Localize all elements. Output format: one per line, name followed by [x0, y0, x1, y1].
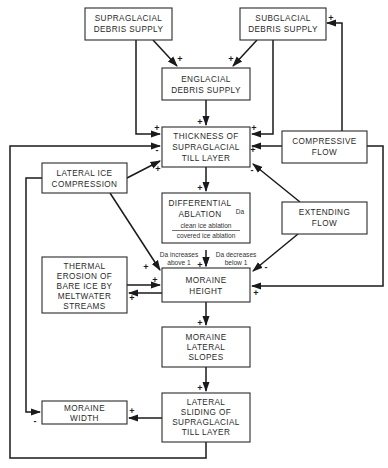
box-label-line: SUBGLACIAL [255, 14, 310, 23]
box-label-line: SUPRAGLACIAL [172, 418, 240, 427]
moraine-feedback-diagram: SUPRAGLACIAL DEBRIS SUPPLY SUBGLACIAL DE… [0, 0, 388, 468]
box-supraglacial-debris-supply: SUPRAGLACIAL DEBRIS SUPPLY [85, 8, 172, 40]
da-increases-annotation: above 1 [167, 259, 191, 266]
box-thermal-erosion: THERMAL EROSION OF BARE ICE BY MELTWATER… [42, 257, 127, 313]
box-label-line: STREAMS [63, 302, 106, 311]
box-label-line: ENGLACIAL [181, 75, 231, 84]
box-label-line: LATERAL [187, 398, 226, 407]
edge-subglacial-to-englacial [233, 40, 257, 66]
box-moraine-width: MORAINE WIDTH [42, 401, 127, 424]
box-label-line: THICKNESS OF [173, 132, 238, 141]
box-moraine-height: MORAINE HEIGHT [162, 268, 250, 302]
box-label-line: ABLATION [178, 210, 221, 219]
box-label-line: DIFFERENTIAL [168, 199, 231, 208]
sign-comp-to-height: + [253, 288, 258, 298]
box-label-line: WIDTH [70, 414, 99, 423]
box-label-line: HEIGHT [189, 287, 222, 296]
edge-supraglacial-to-englacial [153, 40, 177, 66]
sign-comp-to-thick: + [250, 145, 255, 155]
sign-latice-to-thick: + [155, 164, 160, 174]
box-label-line: MELTWATER [58, 292, 111, 301]
box-label-line: LATERAL [187, 343, 226, 352]
box-label-line: SUPRAGLACIAL [172, 143, 240, 152]
sign-sub-feedback: + [328, 13, 333, 23]
box-label-line: COMPRESSIVE [292, 137, 357, 146]
box-label-line: SLIDING OF [181, 408, 231, 417]
sign-supra-to-engl: + [177, 54, 182, 64]
sign-ext-to-thick: - [251, 165, 254, 175]
sign-sliding-to-width: + [129, 406, 134, 416]
edge-lateral-ice-to-moraine-width [26, 178, 42, 412]
box-label-line: DEBRIS SUPPLY [171, 86, 241, 95]
da-decreases-annotation: below 1 [225, 259, 248, 266]
sign-loop-to-thick: - [156, 145, 159, 155]
sign-thick-to-diff: + [197, 183, 202, 193]
box-label-line: LATERAL ICE [57, 169, 113, 178]
ratio-denominator: covered ice ablation [177, 232, 236, 239]
box-label-line: EXTENDING [299, 208, 350, 217]
box-label-line: DEBRIS SUPPLY [248, 25, 318, 34]
box-englacial-debris-supply: ENGLACIAL DEBRIS SUPPLY [162, 68, 250, 100]
sign-engl-to-thick: + [197, 117, 202, 127]
sign-sub-to-engl: + [228, 54, 233, 64]
box-label-line: COMPRESSION [52, 180, 118, 189]
edge-subglacial-to-thickness [252, 40, 273, 134]
box-label-line: THERMAL [64, 262, 106, 271]
sign-latice-to-height: + [143, 262, 148, 272]
sign-thermal-to-height: + [152, 275, 157, 285]
box-differential-ablation: DIFFERENTIAL ABLATION Da clean ice ablat… [162, 193, 250, 243]
edge-extending-to-moraine-height [253, 234, 298, 271]
edge-extending-to-thickness [253, 164, 300, 202]
box-extending-flow: EXTENDING FLOW [282, 202, 367, 234]
sign-supra-to-thick: + [154, 123, 159, 133]
box-label-line: FLOW [312, 219, 337, 228]
box-label-line: MORAINE [64, 404, 105, 413]
edge-compressive-to-subglacial [327, 23, 342, 131]
box-label-line: FLOW [312, 148, 337, 157]
box-label-line: MORAINE [185, 333, 226, 342]
sign-height-to-thermal: + [129, 293, 134, 303]
box-label-line: SLOPES [188, 353, 223, 362]
sign-slopes-to-sliding: + [197, 383, 202, 393]
box-compressive-flow: COMPRESSIVE FLOW [282, 131, 367, 163]
sign-diff-to-height: + [197, 260, 202, 270]
sign-height-to-slopes: + [197, 318, 202, 328]
box-label-line: BARE ICE BY [57, 282, 113, 291]
sign-latice-to-width: - [34, 416, 37, 426]
ratio-numerator: clean ice ablation [181, 222, 232, 229]
box-lateral-ice-compression: LATERAL ICE COMPRESSION [42, 163, 127, 193]
box-subglacial-debris-supply: SUBGLACIAL DEBRIS SUPPLY [240, 8, 326, 40]
box-label-line: MORAINE [185, 276, 226, 285]
da-decreases-annotation: Da decreases [216, 251, 257, 258]
edge-supraglacial-to-thickness [136, 40, 160, 134]
box-lateral-sliding: LATERAL SLIDING OF SUPRAGLACIAL TILL LAY… [162, 393, 250, 442]
box-label-line: SUPRAGLACIAL [95, 14, 163, 23]
box-thickness-of-supraglacial-till-layer: THICKNESS OF SUPRAGLACIAL TILL LAYER [162, 127, 250, 167]
da-symbol: Da [236, 208, 245, 215]
box-label-line: TILL LAYER [182, 154, 231, 163]
box-label-line: DEBRIS SUPPLY [94, 25, 164, 34]
box-moraine-lateral-slopes: MORAINE LATERAL SLOPES [162, 327, 250, 367]
sign-comp-top-to-thick: + [251, 123, 256, 133]
box-label-line: EROSION OF [57, 272, 112, 281]
da-increases-annotation: Da increases [160, 251, 199, 258]
sign-ext-to-height: - [265, 262, 268, 272]
box-label-line: TILL LAYER [182, 428, 231, 437]
